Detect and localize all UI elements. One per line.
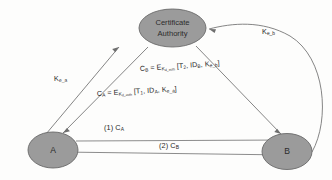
formula-c-a-tail: , K [157,86,166,95]
formula-c-b-e-sub: Kd_auth [161,66,175,72]
formula-c-b-e-sub-sub: d_auth [165,67,175,72]
formula-c-a-e-sub: Kd_auth [119,91,132,97]
node-ca-label-line2: Authority [158,29,188,38]
edge-curve-b-to-ca [209,24,322,152]
node-ca-label-line1: Certificate [155,18,189,27]
edge-label-key-e-a-sub: e_a [59,78,67,83]
node-certificate-authority[interactable]: Certificate Authority [139,9,206,47]
node-b-label: B [284,146,290,156]
formula-c-a-e-sub-sub: d_auth [122,93,132,98]
diagram-canvas: Certificate Authority A B Ke_a Ke_b CB =… [0,0,332,180]
edge-label-key-e-b: Ke_b [262,28,275,37]
arrowhead-ca-to-b [274,129,281,134]
edge-label-key-e-b-sub: e_b [267,31,275,36]
arrowhead-a-to-ca [112,47,119,52]
message-label-2: (2) CB [159,142,179,151]
formula-c-b-tail: , K [200,60,210,69]
node-a[interactable]: A [28,132,78,168]
edge-line-b-to-a [62,152,288,155]
formula-c-a-mid: , ID [143,86,155,95]
formula-c-a-k-sub: e_a [167,88,175,93]
arrowhead-b-to-ca [209,29,216,33]
node-ca-ellipse[interactable] [139,9,206,47]
node-a-label: A [50,145,56,155]
edge-line-a-to-b [76,140,285,141]
arrowhead-ca-to-a [63,128,70,133]
message-label-2-sub: B [176,145,179,150]
formula-c-a-close: ] [174,85,177,93]
message-label-1: (1) CA [104,124,124,133]
message-label-1-sub: A [121,127,124,132]
edge-a-to-b-msg1 [76,138,285,142]
edge-label-key-e-a: Ke_a [54,75,67,84]
node-b[interactable]: B [262,134,312,170]
formula-c-b-mid: , ID [186,61,198,70]
message-label-2-number: (2) [159,141,170,150]
message-label-1-number: (1) [104,123,115,132]
edge-b-to-ca-key [209,24,322,152]
